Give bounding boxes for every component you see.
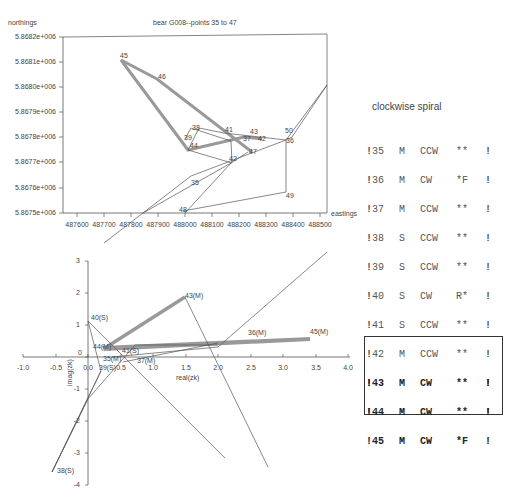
row-separator: ! <box>485 262 491 273</box>
row-separator: ! <box>485 320 491 331</box>
point-label-43: 43 <box>250 128 258 135</box>
row-type: S <box>399 262 405 273</box>
row-separator: ! <box>366 378 372 389</box>
point-label-43M: 43(M) <box>185 292 203 300</box>
highlight-box <box>364 336 503 415</box>
bottom-x-ticks <box>23 354 348 357</box>
point-label-45: 45 <box>120 52 128 59</box>
point-label-37: 37 <box>243 135 251 142</box>
row-flag: R* <box>456 291 468 302</box>
bottom-x-tick: 3.5 <box>311 364 321 371</box>
bottom-y-tick: -4 <box>74 481 80 488</box>
top-x-tick: 488400 <box>281 221 304 228</box>
bottom-y-tick: -1 <box>74 385 80 392</box>
point-label-36M: 36(M) <box>248 329 266 337</box>
top-y-tick: 5.8679e+006 <box>15 108 56 115</box>
top-frame-top <box>63 34 327 37</box>
bottom-thin-tracks <box>52 252 327 472</box>
row-separator: ! <box>485 233 491 244</box>
point-label-38: 38 <box>192 124 200 131</box>
bottom-y-tick: -3 <box>74 449 80 456</box>
bottom-thick-track-43 <box>105 297 185 348</box>
top-x-tick: 487600 <box>65 221 88 228</box>
top-y-tick: 5.8682e+006 <box>15 33 56 40</box>
point-label-35M: 35(M) <box>103 355 121 363</box>
bottom-x-tick: 4.0 <box>343 364 353 371</box>
row-dir: CCW <box>420 146 438 157</box>
bottom-y-tick: 0 <box>78 349 82 356</box>
row-separator: ! <box>485 407 491 418</box>
row-separator: ! <box>366 407 372 418</box>
row-type: M <box>399 349 405 360</box>
row-type: M <box>399 407 405 418</box>
row-separator: ! <box>485 378 491 389</box>
charts-canvas: northings bear G008--points 35 to 47 eas… <box>0 0 516 502</box>
bottom-chart-xlabel: real(zk) <box>176 374 199 382</box>
point-label-42: 42 <box>229 155 237 162</box>
top-x-tick: 488500 <box>308 221 331 228</box>
bottom-x-tick: -0.5 <box>50 364 62 371</box>
top-y-ticks <box>59 37 63 213</box>
top-thin-tracks <box>104 85 327 243</box>
row-separator: ! <box>366 233 372 244</box>
bottom-x-tick: 2.5 <box>246 364 256 371</box>
row-dir: CCW <box>420 262 438 273</box>
top-x-tick: 488200 <box>227 221 250 228</box>
row-dir: CW <box>420 291 432 302</box>
row-type: S <box>399 320 405 331</box>
point-label-47: 47 <box>249 148 257 155</box>
top-y-tick: 5.8680e+006 <box>15 83 56 90</box>
row-separator: ! <box>366 291 372 302</box>
point-label-48: 48 <box>179 206 187 213</box>
top-x-tick: 487700 <box>92 221 115 228</box>
row-type: S <box>399 291 405 302</box>
row-end: ! <box>485 436 491 447</box>
row-flag: *F <box>456 436 468 447</box>
row-separator: ! <box>366 146 372 157</box>
top-x-tick: 488000 <box>173 221 196 228</box>
top-y-tick: 5.8676e+006 <box>15 184 56 191</box>
row-flag: ** <box>456 407 468 418</box>
bottom-y-tick: 2 <box>76 289 80 296</box>
point-label-38S: 38(S) <box>57 467 74 475</box>
top-chart-xlabel: eastings <box>331 210 358 218</box>
row-type: M <box>399 175 405 186</box>
point-label-39S: 39(S) <box>99 364 116 372</box>
bottom-chart: 3 2 1 0 -1 -2 -3 -4 -1.0 -0.5 0.0 0.5 1.… <box>17 252 353 488</box>
top-y-tick: 5.8677e+006 <box>15 158 56 165</box>
point-label-37M: 37(M) <box>137 357 155 365</box>
point-label-50: 50 <box>285 127 293 134</box>
bottom-y-ticks <box>85 261 88 485</box>
bottom-chart-ylabel: imag(zk) <box>66 359 74 386</box>
point-label-44: 44 <box>190 142 198 149</box>
top-y-tick: 5.8675e+006 <box>15 209 56 216</box>
row-dir: CCW <box>420 320 438 331</box>
point-label-44M: 44(M) <box>93 343 111 351</box>
top-chart-ylabel: northings <box>8 19 37 27</box>
row-flag: ** <box>456 378 468 389</box>
point-label-40S: 40(S) <box>91 314 108 322</box>
point-label-39: 39 <box>184 134 192 141</box>
row-separator: ! <box>485 204 491 215</box>
spiral-title: clockwise spiral <box>372 101 441 112</box>
row-id: !45 <box>366 436 384 447</box>
row-dir: CCW <box>420 233 438 244</box>
bottom-x-tick: 1.0 <box>148 364 158 371</box>
row-separator: ! <box>366 175 372 186</box>
row-separator: ! <box>485 349 491 360</box>
row-flag: ** <box>456 349 468 360</box>
row-dir: CCW <box>420 349 438 360</box>
point-label-41S: 41(S) <box>122 347 139 355</box>
point-label-42b: 42 <box>258 135 266 142</box>
row-dir: CW <box>420 407 432 418</box>
point-label-49: 49 <box>286 192 294 199</box>
row-type: M <box>399 378 405 389</box>
top-chart: northings bear G008--points 35 to 47 eas… <box>8 19 358 243</box>
row-separator: ! <box>485 175 491 186</box>
bottom-x-tick: 0.0 <box>83 364 93 371</box>
bottom-x-tick: 3.0 <box>278 364 288 371</box>
bottom-x-tick: -1.0 <box>17 364 29 371</box>
bottom-y-tick: 1 <box>76 321 80 328</box>
row-type: M <box>399 436 405 447</box>
row-dir: CW <box>420 378 432 389</box>
